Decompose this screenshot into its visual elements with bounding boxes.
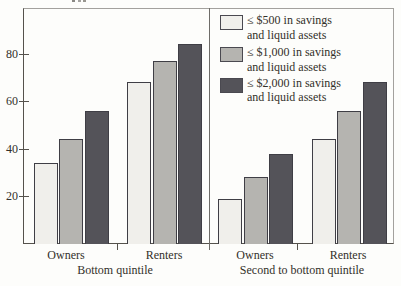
bar-second-to-bottom-quintile-renters-1000	[337, 111, 361, 244]
y-tick-label-20: 20	[0, 190, 18, 203]
y-tick-label-80: 80	[0, 48, 18, 61]
panel-label-bottom-quintile: Bottom quintile	[77, 263, 153, 278]
y-tick-label-40: 40	[0, 143, 18, 156]
clipped-title-fragment	[72, 0, 75, 2]
x-axis-tick-second-quintile	[297, 244, 298, 250]
y-tick-80	[19, 54, 29, 55]
bar-second-to-bottom-quintile-owners-500	[218, 199, 242, 244]
y-tick-60	[19, 101, 29, 102]
legend-label-500-line2: and liquid assets	[247, 28, 332, 43]
bar-second-to-bottom-quintile-owners-1000	[244, 177, 268, 244]
legend-label-2000: ≤ $2,000 in savings and liquid assets	[247, 76, 341, 105]
legend-label-500: ≤ $500 in savings and liquid assets	[247, 13, 332, 42]
group-label-bottom-renters: Renters	[146, 248, 183, 263]
legend-swatch-500-icon	[220, 15, 243, 30]
panel-label-second-quintile: Second to bottom quintile	[240, 263, 364, 278]
legend-swatch-2000-icon	[220, 78, 243, 93]
y-tick-20	[19, 196, 29, 197]
legend-label-2000-line2: and liquid assets	[247, 90, 341, 105]
group-label-second-owners: Owners	[236, 248, 273, 263]
legend-label-1000-line2: and liquid assets	[247, 60, 341, 75]
grouped-bar-chart-figure: 20406080 Owners Renters Owners Renters B…	[0, 0, 401, 286]
legend-label-1000-line1: ≤ $1,000 in savings	[247, 45, 341, 60]
bar-bottom-quintile-renters-500	[127, 82, 151, 244]
group-label-bottom-owners: Owners	[47, 248, 84, 263]
bar-second-to-bottom-quintile-owners-2000	[269, 154, 293, 244]
panel-divider-line	[209, 8, 210, 250]
bar-bottom-quintile-owners-1000	[59, 139, 83, 244]
group-label-second-renters: Renters	[330, 248, 367, 263]
y-tick-40	[19, 149, 29, 150]
legend-label-2000-line1: ≤ $2,000 in savings	[247, 76, 341, 91]
bar-second-to-bottom-quintile-renters-2000	[363, 82, 387, 244]
legend-label-1000: ≤ $1,000 in savings and liquid assets	[247, 45, 341, 74]
bar-bottom-quintile-renters-1000	[153, 61, 177, 244]
bar-bottom-quintile-renters-2000	[178, 44, 202, 244]
legend-label-500-line1: ≤ $500 in savings	[247, 13, 332, 28]
bar-second-to-bottom-quintile-renters-500	[312, 139, 336, 244]
bar-bottom-quintile-owners-2000	[85, 111, 109, 244]
x-axis-tick-bottom-quintile	[117, 244, 118, 250]
legend-swatch-1000-icon	[220, 47, 243, 62]
bar-bottom-quintile-owners-500	[34, 163, 58, 244]
y-tick-label-60: 60	[0, 95, 18, 108]
